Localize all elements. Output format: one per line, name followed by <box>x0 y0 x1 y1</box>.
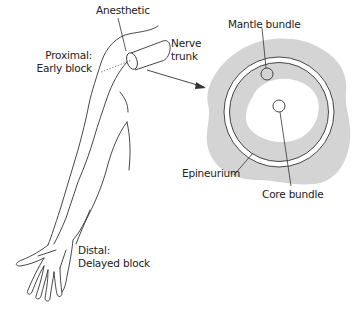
proximal-label-line2: Early block <box>30 62 92 75</box>
anesthetic-label: Anesthetic <box>96 4 150 17</box>
mantle-bundle <box>261 68 273 80</box>
nerve-trunk-label-line1: Nerve <box>171 37 201 50</box>
nerve-trunk-cylinder <box>125 41 171 71</box>
distal-label-line1: Distal: <box>78 244 110 257</box>
proximal-label-line1: Proximal: <box>30 49 92 62</box>
anesthetic-leader-line <box>118 18 126 51</box>
arrow-to-cross-section <box>147 70 206 89</box>
proximal-leader-line <box>101 60 132 72</box>
nerve-trunk-label-line2: trunk <box>171 50 198 63</box>
core-bundle-label: Core bundle <box>262 188 323 201</box>
epineurium-label: Epineurium <box>182 167 240 180</box>
core-bundle <box>273 100 285 112</box>
distal-label-line2: Delayed block <box>78 257 150 270</box>
mantle-bundle-label: Mantle bundle <box>228 18 300 31</box>
nerve-block-diagram: Anesthetic Nerve trunk Proximal: Early b… <box>0 0 361 311</box>
